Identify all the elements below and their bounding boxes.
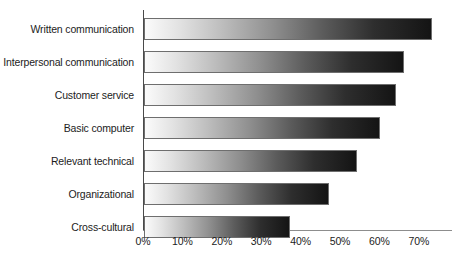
bar-organizational (144, 183, 329, 205)
bar-interpersonal-communication (144, 51, 404, 73)
bar-basic-computer (144, 117, 380, 139)
y-axis-label-written-communication: Written communication (0, 18, 138, 40)
y-axis-label-relevant-technical: Relevant technical (0, 150, 138, 172)
y-axis-label-cross-cultural: Cross-cultural (0, 216, 138, 238)
y-axis-label-organizational: Organizational (0, 183, 138, 205)
x-tick-0: 0% (136, 235, 151, 247)
bar-chart: Written communication Interpersonal comm… (0, 0, 459, 267)
bar-relevant-technical (144, 150, 357, 172)
x-tick-60: 60% (369, 235, 390, 247)
plot-area (143, 10, 452, 231)
x-tick-40: 40% (290, 235, 311, 247)
bar-written-communication (144, 18, 432, 40)
bar-customer-service (144, 84, 396, 106)
x-tick-50: 50% (330, 235, 351, 247)
x-tick-20: 20% (211, 235, 232, 247)
x-tick-10: 10% (172, 235, 193, 247)
x-axis-tick-labels: 0% 10% 20% 30% 40% 50% 60% 70% (143, 235, 459, 251)
x-tick-70: 70% (408, 235, 429, 247)
y-axis-category-labels: Written communication Interpersonal comm… (0, 18, 138, 231)
x-tick-30: 30% (251, 235, 272, 247)
y-axis-label-basic-computer: Basic computer (0, 117, 138, 139)
y-axis-label-interpersonal-communication: Interpersonal communication (0, 51, 138, 73)
y-axis-label-customer-service: Customer service (0, 84, 138, 106)
